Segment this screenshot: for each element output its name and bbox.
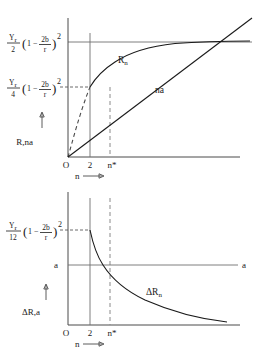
top-xtick-2: 2	[88, 160, 93, 170]
bottom-ytick-label-upper: Yr 12 ( 1 − 2b r ) 2	[6, 220, 62, 242]
top-ylabel-lower-exponent: 2	[57, 77, 61, 86]
top-ylabel-upper-expr1: 1 −	[27, 39, 38, 48]
top-ytick-label-upper: Yr 2 ( 1 − 2b r ) 2	[7, 32, 61, 54]
bottom-ytick-label-a: a	[54, 260, 58, 270]
bottom-ylabel-den: 12	[9, 233, 17, 242]
top-curve-label-na: na	[155, 85, 165, 95]
svg-text:Yr: Yr	[9, 221, 17, 232]
svg-text:Yr: Yr	[9, 78, 17, 89]
top-ylabel-upper-close-paren: )	[52, 36, 56, 51]
top-xtick-origin: O	[63, 160, 70, 170]
svg-text:Yr: Yr	[9, 33, 17, 44]
two-panel-plot: Yr 2 ( 1 − 2b r ) 2 Yr 4 ( 1 −	[0, 0, 266, 360]
top-ylabel-upper-exponent: 2	[57, 32, 61, 41]
bottom-ylabel-open-paren: (	[23, 224, 27, 239]
bottom-panel: Yr 12 ( 1 − 2b r ) 2 a a ΔR,a O 2 n*	[6, 192, 246, 349]
top-ylabel-upper-frac2-den: r	[44, 45, 47, 54]
top-curve-rn-dashed	[68, 87, 90, 157]
top-ylabel-lower-den: 4	[11, 90, 15, 99]
bottom-ylabel-frac2-num: 2b	[42, 223, 50, 232]
bottom-ylabel-close-paren: )	[53, 224, 57, 239]
bottom-xtick-nstar: n*	[108, 328, 118, 338]
bottom-curve-label-delta-rn: ΔRn	[146, 287, 162, 299]
bottom-xtick-origin: O	[63, 328, 70, 338]
top-ylabel-lower-open-paren: (	[22, 81, 26, 96]
top-xtick-nstar: n*	[108, 160, 118, 170]
top-ylabel-lower-expr1: 1 −	[27, 84, 38, 93]
top-ylabel-upper-den: 2	[11, 45, 15, 54]
bottom-ylabel-frac2-den: r	[45, 233, 48, 242]
top-ytick-label-lower: Yr 4 ( 1 − 2b r ) 2	[7, 77, 61, 99]
top-x-axis-label: n	[75, 171, 80, 181]
top-y-axis-label: R,na	[16, 137, 33, 147]
figure-container: Yr 2 ( 1 − 2b r ) 2 Yr 4 ( 1 −	[0, 0, 266, 360]
bottom-y-axis-label: ΔR,a	[22, 307, 40, 317]
bottom-ylabel-exponent: 2	[58, 220, 62, 229]
top-ylabel-lower-close-paren: )	[52, 81, 56, 96]
top-ylabel-upper-open-paren: (	[22, 36, 26, 51]
top-curve-label-rn: Rn	[118, 55, 128, 67]
top-panel: Yr 2 ( 1 − 2b r ) 2 Yr 4 ( 1 −	[7, 18, 252, 181]
bottom-curve-delta-rn	[90, 230, 227, 322]
top-ylabel-lower-frac2-den: r	[44, 90, 47, 99]
bottom-xtick-2: 2	[88, 328, 93, 338]
bottom-ylabel-expr1: 1 −	[28, 227, 39, 236]
top-ylabel-lower-frac2-num: 2b	[41, 80, 49, 89]
top-ylabel-upper-frac2-num: 2b	[41, 35, 49, 44]
bottom-right-label-a: a	[242, 260, 246, 270]
bottom-x-axis-label: n	[75, 339, 80, 349]
